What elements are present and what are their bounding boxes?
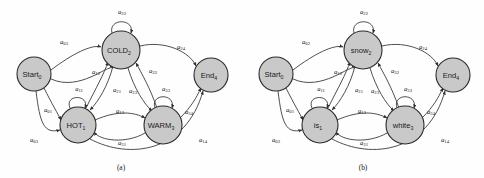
panel-a-nodes: Start0 COLD2 HOT1 WARM3 End4 (17, 31, 228, 144)
node-start[interactable]: Start0 (259, 57, 293, 91)
edge-start-snow (293, 46, 343, 70)
edge-label: a03 (60, 38, 69, 47)
edge-label: a33 (162, 85, 171, 94)
panel-a-graph: Start0 COLD2 HOT1 WARM3 End4 (0, 0, 242, 178)
node-end[interactable]: End4 (194, 58, 228, 92)
edge-label: a21 (355, 86, 364, 95)
edge-label: a02 (302, 38, 311, 47)
svg-text:white3: white3 (392, 121, 414, 131)
edge-label: a13 (116, 107, 125, 116)
edge-label: a01 (44, 106, 53, 115)
node-is[interactable]: is1 (302, 107, 338, 143)
edge-start-hot (44, 88, 61, 120)
svg-text:WARM3: WARM3 (148, 121, 175, 131)
edge-label: a11 (317, 85, 325, 94)
edge-snow-end (382, 44, 438, 66)
edge-start-cold (51, 46, 101, 70)
edge-label: a23 (129, 87, 138, 96)
svg-text:COLD2: COLD2 (107, 46, 131, 56)
node-hot[interactable]: HOT1 (60, 107, 96, 143)
edge-label: a12 (334, 68, 343, 77)
node-warm[interactable]: WARM3 (144, 106, 182, 144)
panel-b-caption: (b) (359, 163, 368, 172)
node-cold[interactable]: COLD2 (102, 31, 140, 69)
panel-b-graph: Start0 snow2 is1 white3 End4 (242, 0, 484, 178)
edge-label: a21 (113, 86, 122, 95)
node-start[interactable]: Start0 (17, 57, 51, 91)
panel-a: Start0 COLD2 HOT1 WARM3 End4 (0, 0, 242, 178)
edge-label: a01 (286, 106, 295, 115)
node-end[interactable]: End4 (436, 58, 470, 92)
edge-label: a34 (185, 108, 194, 117)
svg-text:snow2: snow2 (351, 46, 372, 56)
edge-start-cold-2 (51, 68, 113, 83)
edge-label: a14 (199, 136, 208, 145)
edge-label: a33 (404, 85, 413, 94)
node-white[interactable]: white3 (386, 106, 424, 144)
edge-label: a32 (391, 67, 400, 76)
panel-a-caption: (a) (117, 163, 126, 172)
edge-label: a14 (441, 136, 450, 145)
edge-label: a13 (358, 107, 367, 116)
edge-label: a23 (371, 87, 380, 96)
edge-label: a32 (149, 67, 158, 76)
edge-hot-self (69, 98, 86, 109)
edge-start-is (286, 88, 303, 120)
edge-label: a03 (30, 136, 39, 145)
edge-start-snow-2 (293, 68, 355, 83)
edge-label: a11 (75, 85, 83, 94)
edge-label: a22 (118, 8, 127, 17)
edge-label: a03 (272, 136, 281, 145)
panel-b-nodes: Start0 snow2 is1 white3 End4 (259, 31, 470, 144)
edge-is-self (311, 98, 328, 109)
figure-canvas: Start0 COLD2 HOT1 WARM3 End4 (0, 0, 484, 178)
edge-label: a12 (92, 68, 101, 77)
node-snow[interactable]: snow2 (344, 31, 382, 69)
edge-label: a22 (360, 8, 369, 17)
edge-cold-end (140, 44, 196, 66)
edge-label: a34 (427, 108, 436, 117)
panel-b: Start0 snow2 is1 white3 End4 (242, 0, 484, 178)
